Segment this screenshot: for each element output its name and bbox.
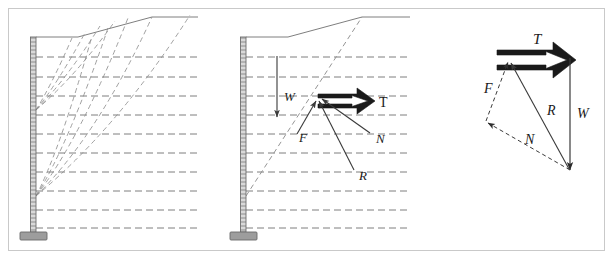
- panel-a-trial-failure-surfaces: [20, 15, 198, 240]
- trial-failure-surface: [36, 18, 128, 196]
- polygon-friction-label: F: [483, 81, 493, 96]
- diagram-canvas: W T F N R T: [0, 0, 615, 261]
- polygon-resultant-vector-r: [511, 63, 569, 169]
- trial-failure-surfaces-upper-a: [36, 21, 115, 110]
- polygon-weight-label: W: [577, 106, 590, 121]
- weight-vector-label: W: [284, 89, 296, 104]
- polygon-resultant-label: R: [546, 103, 556, 118]
- wall-footing-pad: [230, 232, 257, 240]
- resultant-vector-label: R: [358, 168, 367, 183]
- retaining-wall-stem: [241, 37, 247, 232]
- tension-vector-label: T: [379, 95, 388, 110]
- panel-c-force-polygon: T W N F R: [483, 31, 590, 170]
- friction-vector-label: F: [298, 130, 308, 145]
- panel-b-force-equilibrium: W T F N R: [230, 17, 410, 240]
- tension-vector-t: [318, 88, 375, 114]
- ground-surface-profile-b: [246, 17, 410, 37]
- trial-failure-surface: [36, 15, 190, 196]
- polygon-normal-label: N: [524, 132, 535, 147]
- resultant-vector-r: [319, 101, 354, 170]
- ground-surface-profile-a: [36, 17, 198, 37]
- figure-root: W T F N R T: [0, 0, 615, 261]
- reinforcement-layers-b: [246, 57, 410, 228]
- trial-failure-surface: [36, 26, 100, 110]
- normal-vector-label: N: [375, 131, 386, 146]
- polygon-tension-label: T: [533, 31, 543, 47]
- wall-footing-pad: [20, 232, 47, 240]
- trial-failure-surface: [36, 31, 86, 110]
- retaining-wall-stem: [31, 37, 37, 232]
- trial-failure-surfaces-lower-a: [36, 15, 190, 196]
- polygon-tension-vector-t: [497, 42, 576, 78]
- trial-failure-surface: [36, 21, 115, 110]
- trial-failure-surface: [36, 17, 152, 196]
- trial-failure-surface: [36, 28, 108, 196]
